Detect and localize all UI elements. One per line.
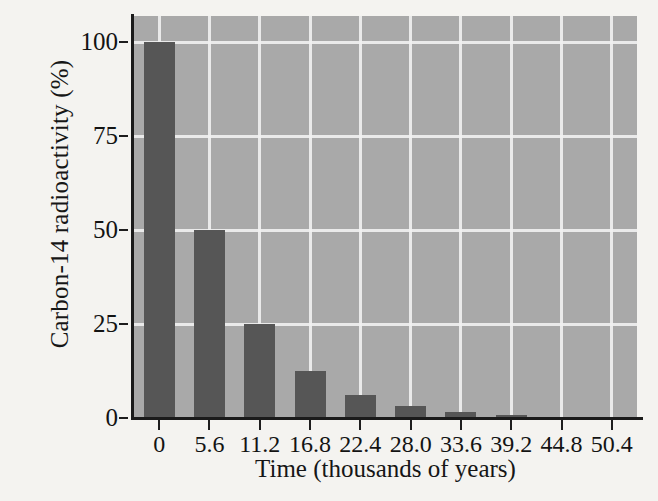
plot-area	[134, 16, 637, 418]
vertical-gridline	[409, 16, 412, 418]
vertical-gridline	[560, 16, 563, 418]
y-tick-mark	[119, 417, 128, 419]
x-tick-mark	[611, 420, 613, 430]
vertical-gridline	[510, 16, 513, 418]
vertical-gridline	[459, 16, 462, 418]
x-tick-label: 39.2	[490, 431, 532, 458]
x-tick-mark	[309, 420, 311, 430]
x-tick-mark	[359, 420, 361, 430]
x-tick-mark	[259, 420, 261, 430]
y-tick-label: 25	[93, 310, 118, 338]
x-tick-label: 22.4	[339, 431, 381, 458]
x-tick-label: 28.0	[390, 431, 432, 458]
vertical-gridline	[359, 16, 362, 418]
x-tick-mark	[510, 420, 512, 430]
x-tick-mark	[410, 420, 412, 430]
y-tick-mark	[119, 323, 128, 325]
carbon-14-decay-bar-chart: Carbon-14 radioactivity (%) 0255075100 0…	[0, 0, 658, 501]
y-tick-label: 0	[106, 404, 119, 432]
y-axis-spine	[131, 14, 134, 420]
x-axis-title: Time (thousands of years)	[134, 455, 637, 483]
y-tick-label: 75	[93, 122, 118, 150]
x-tick-label: 50.4	[591, 431, 633, 458]
x-tick-label: 16.8	[289, 431, 331, 458]
y-tick-mark	[119, 135, 128, 137]
bar	[244, 324, 275, 418]
bar	[194, 230, 225, 418]
bar	[345, 395, 376, 418]
y-tick-mark	[119, 41, 128, 43]
y-tick-label: 100	[81, 28, 119, 56]
y-tick-mark	[119, 229, 128, 231]
bar	[295, 371, 326, 418]
x-tick-label: 44.8	[541, 431, 583, 458]
x-tick-label: 33.6	[440, 431, 482, 458]
bar	[144, 42, 175, 418]
x-tick-mark	[460, 420, 462, 430]
x-tick-label: 5.6	[194, 431, 224, 458]
vertical-gridline	[309, 16, 312, 418]
x-tick-label: 11.2	[239, 431, 280, 458]
x-tick-mark	[158, 420, 160, 430]
y-tick-label: 50	[93, 216, 118, 244]
x-tick-label: 0	[153, 431, 165, 458]
x-tick-mark	[208, 420, 210, 430]
y-axis-ticks: 0255075100	[52, 0, 128, 501]
x-tick-mark	[561, 420, 563, 430]
vertical-gridline	[610, 16, 613, 418]
